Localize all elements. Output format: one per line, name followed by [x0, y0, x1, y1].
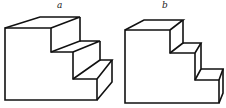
- figure-b-staircase: [125, 20, 223, 103]
- staircase-diagrams: [0, 0, 226, 108]
- figure-a-staircase: [5, 17, 112, 100]
